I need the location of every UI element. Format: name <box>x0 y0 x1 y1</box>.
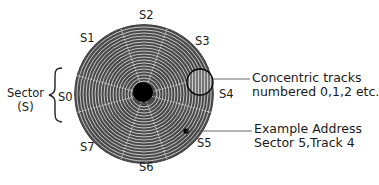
tracks-annotation-line1: Concentric tracks <box>252 71 379 85</box>
sector-label-s7: S7 <box>80 142 95 154</box>
spindle-hub <box>133 82 153 102</box>
sector-label-s2: S2 <box>139 10 154 22</box>
tracks-annotation: Concentric tracks numbered 0,1,2 etc. <box>252 71 379 99</box>
address-annotation: Example Address Sector 5,Track 4 <box>254 122 362 150</box>
tracks-annotation-line2: numbered 0,1,2 etc. <box>252 85 379 99</box>
address-annotation-line1: Example Address <box>254 122 362 136</box>
sector-brace-line2: (S) <box>7 100 44 114</box>
sector-label-s6: S6 <box>139 162 154 174</box>
sector-label-s3: S3 <box>195 36 210 48</box>
sector-label-s1: S1 <box>80 33 95 45</box>
sector-label-s0: S0 <box>58 92 73 104</box>
sector-label-s4: S4 <box>219 89 234 101</box>
sector-label-s5: S5 <box>197 138 212 150</box>
address-annotation-line2: Sector 5,Track 4 <box>254 136 362 150</box>
sector-brace-line1: Sector <box>7 86 44 100</box>
sector-brace-label: Sector (S) <box>7 86 44 114</box>
